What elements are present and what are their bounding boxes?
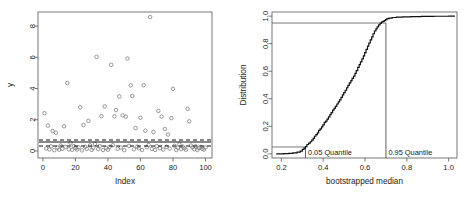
- scatter-point: [132, 148, 136, 152]
- scatter-point: [163, 127, 167, 131]
- scatter-point: [171, 87, 175, 91]
- ecdf-curve: [276, 16, 455, 154]
- scatter-point: [113, 115, 117, 119]
- scatter-point: [153, 148, 157, 152]
- scatter-x-tick-label: 60: [136, 163, 144, 172]
- scatter-point: [79, 106, 83, 110]
- scatter-x-tick-label: 80: [169, 163, 177, 172]
- scatter-y-tick-label: 6: [28, 55, 37, 59]
- ecdf-y-axis-label: Distribution: [239, 64, 248, 105]
- scatter-point: [103, 105, 107, 109]
- scatter-point: [126, 57, 130, 61]
- ecdf-y-tick-label: 0.8: [261, 38, 270, 49]
- scatter-point: [43, 111, 47, 115]
- figure-root: 02040608010002468 Index y 0.05 Quantile0…: [0, 0, 468, 212]
- scatter-y-tick-label: 0: [28, 149, 37, 153]
- ecdf-x-tick-label: 1.0: [443, 163, 454, 172]
- ecdf-x-tick-label: 0.8: [402, 163, 413, 172]
- scatter-point: [160, 115, 164, 119]
- ecdf-y-tick-label: 0.0: [261, 149, 270, 160]
- scatter-x-axis-label: Index: [115, 177, 135, 186]
- scatter-point: [66, 81, 70, 85]
- scatter-point: [53, 148, 57, 152]
- scatter-point: [64, 145, 68, 149]
- scatter-plot-svg: 02040608010002468 Index y: [0, 0, 234, 212]
- ecdf-x-tick-label: 0.6: [360, 163, 371, 172]
- ecdf-x-axis-label: bootstrapped median: [326, 177, 403, 186]
- scatter-point: [46, 124, 50, 128]
- scatter-point: [100, 114, 104, 118]
- scatter-point: [140, 148, 144, 152]
- ecdf-y-tick-label: 0.6: [261, 66, 270, 77]
- scatter-point: [152, 130, 156, 134]
- scatter-point: [80, 149, 84, 153]
- scatter-point: [155, 144, 159, 148]
- scatter-point: [139, 116, 143, 120]
- ecdf-quantile-annotation: 0.05 Quantile: [308, 148, 352, 157]
- scatter-point: [93, 142, 97, 146]
- ecdf-y-tick-label: 0.2: [261, 121, 270, 132]
- scatter-point: [131, 94, 135, 98]
- scatter-point: [144, 129, 148, 133]
- scatter-y-tick-label: 8: [28, 24, 37, 28]
- scatter-point: [87, 119, 91, 123]
- ecdf-axis-ticks: [269, 16, 449, 161]
- scatter-point: [88, 144, 92, 148]
- ecdf-x-tick-label: 0.2: [276, 163, 287, 172]
- ecdf-x-tick-label: 0.4: [318, 163, 329, 172]
- ecdf-plot-svg: 0.05 Quantile0.95 Quantile 0.20.40.60.81…: [234, 0, 468, 212]
- ecdf-panel: 0.05 Quantile0.95 Quantile 0.20.40.60.81…: [234, 0, 468, 212]
- scatter-point: [161, 148, 165, 152]
- ecdf-quantile-annotation: 0.95 Quantile: [388, 148, 432, 157]
- ecdf-y-tick-label: 0.4: [261, 93, 270, 104]
- scatter-point: [186, 107, 190, 111]
- scatter-x-tick-label: 20: [71, 163, 79, 172]
- scatter-point: [114, 108, 118, 112]
- scatter-plot-frame: [38, 12, 212, 158]
- scatter-point: [118, 95, 122, 99]
- scatter-x-tick-label: 40: [104, 163, 112, 172]
- ecdf-plot-frame: [272, 12, 457, 158]
- scatter-point: [170, 116, 174, 120]
- scatter-point: [54, 131, 58, 135]
- scatter-point: [187, 120, 191, 124]
- scatter-point: [168, 147, 172, 151]
- scatter-point: [142, 83, 146, 87]
- scatter-y-tick-label: 4: [28, 86, 37, 90]
- scatter-panel: 02040608010002468 Index y: [0, 0, 234, 212]
- scatter-point: [129, 84, 133, 88]
- scatter-point: [101, 148, 105, 152]
- scatter-point: [95, 55, 99, 59]
- scatter-point: [166, 133, 170, 137]
- scatter-x-tick-label: 100: [199, 163, 212, 172]
- scatter-point: [61, 147, 65, 151]
- ecdf-y-tick-label: 1.0: [261, 11, 270, 22]
- scatter-x-tick-label: 0: [41, 163, 45, 172]
- scatter-point: [157, 109, 161, 113]
- scatter-point: [122, 148, 126, 152]
- scatter-point: [148, 15, 152, 19]
- ecdf-annotations: 0.05 Quantile0.95 Quantile: [308, 148, 432, 157]
- scatter-point: [134, 126, 138, 130]
- scatter-point: [124, 115, 128, 119]
- scatter-point: [82, 123, 86, 127]
- scatter-y-axis-label: y: [6, 82, 15, 87]
- scatter-point: [67, 148, 71, 152]
- scatter-points-group: [43, 15, 208, 152]
- scatter-point: [109, 63, 113, 67]
- scatter-y-tick-label: 2: [28, 118, 37, 122]
- scatter-axis-ticks: [35, 26, 206, 161]
- scatter-point: [62, 125, 66, 129]
